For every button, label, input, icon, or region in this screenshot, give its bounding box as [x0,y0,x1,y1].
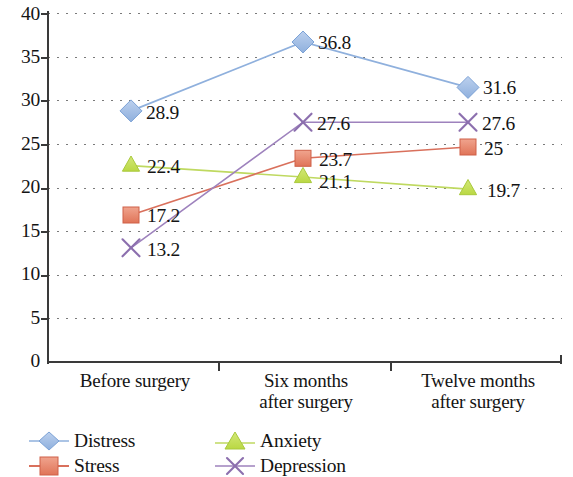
data-label-distress-3: 31.6 [483,78,516,98]
data-label-anxiety-2: 21.1 [319,172,352,192]
data-label-stress-3: 25 [484,139,503,159]
x-category-label-2: Six months after surgery [228,370,384,412]
data-label-anxiety-1: 22.4 [147,157,180,177]
x-category-label-1: Before surgery [55,370,215,391]
legend-item-distress[interactable]: Distress [26,428,212,453]
legend-marker-depression-cross-icon [212,455,258,477]
data-label-depression-2: 27.6 [317,114,350,134]
legend-label-stress: Stress [74,456,119,476]
series-depression [123,114,477,257]
x-category-label-3: Twelve months after surgery [398,370,558,412]
legend-label-depression: Depression [260,456,346,476]
x-category-1-line-1: Before surgery [55,370,215,391]
line-chart: 40 35 30 25 20 15 10 5 0 [0,0,573,477]
x-category-3-line-1: Twelve months [398,370,558,391]
chart-legend: Distress Anxiety [26,428,456,477]
x-category-3-line-2: after surgery [398,391,558,412]
legend-marker-anxiety-triangle-icon [212,430,258,452]
data-label-depression-1: 13.2 [147,240,180,260]
legend-label-anxiety: Anxiety [260,431,321,451]
legend-marker-distress-diamond-icon [26,430,72,452]
data-label-stress-2: 23.7 [319,150,352,170]
data-label-anxiety-3: 19.7 [487,181,520,201]
legend-row-1: Distress Anxiety [26,428,456,453]
legend-row-2: Stress Depression [26,453,456,477]
legend-item-anxiety[interactable]: Anxiety [212,428,412,453]
legend-marker-stress-square-icon [26,455,72,477]
data-label-depression-3: 27.6 [482,114,515,134]
data-label-distress-1: 28.9 [146,103,179,123]
x-category-2-line-1: Six months [228,370,384,391]
data-label-distress-2: 36.8 [318,33,351,53]
legend-label-distress: Distress [74,431,135,451]
legend-item-depression[interactable]: Depression [212,453,412,477]
data-label-stress-1: 17.2 [147,206,180,226]
x-category-2-line-2: after surgery [228,391,384,412]
legend-item-stress[interactable]: Stress [26,453,212,477]
